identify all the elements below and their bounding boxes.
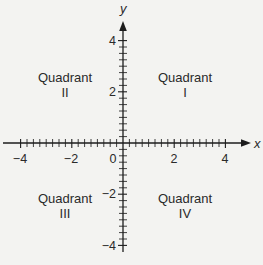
quadrant-numeral: III — [60, 206, 71, 221]
quadrant-title: Quadrant — [38, 191, 93, 206]
quadrant-III-label: Quadrant III — [38, 191, 93, 221]
x-axis-arrow-icon — [241, 139, 251, 147]
quadrant-IV-label: Quadrant IV — [158, 191, 213, 221]
quadrant-numeral: IV — [179, 206, 192, 221]
x-tick-label: −2 — [64, 152, 78, 166]
y-tick-label: −4 — [102, 239, 116, 253]
quadrant-numeral: II — [61, 85, 68, 100]
quadrant-II-label: Quadrant II — [38, 70, 93, 100]
quadrant-numeral: I — [183, 85, 187, 100]
x-tick-label: 4 — [222, 152, 229, 166]
x-tick-label: 0 — [110, 152, 117, 166]
quadrant-title: Quadrant — [38, 70, 93, 85]
y-tick-label: 2 — [109, 85, 116, 99]
quadrant-I-label: Quadrant I — [158, 70, 213, 100]
y-axis-label: y — [119, 1, 128, 16]
y-tick-label: −2 — [102, 187, 116, 201]
quadrant-title: Quadrant — [158, 191, 213, 206]
quadrant-title: Quadrant — [158, 70, 213, 85]
coordinate-plane: x y −4 −2 0 2 4 4 2 −2 −4 Quadrant I Qua… — [0, 0, 263, 265]
x-tick-label: 2 — [171, 152, 178, 166]
x-tick-label: −4 — [13, 152, 27, 166]
y-axis-arrow-icon — [119, 21, 127, 31]
y-tick-label: 4 — [109, 34, 116, 48]
x-axis-label: x — [253, 136, 261, 151]
